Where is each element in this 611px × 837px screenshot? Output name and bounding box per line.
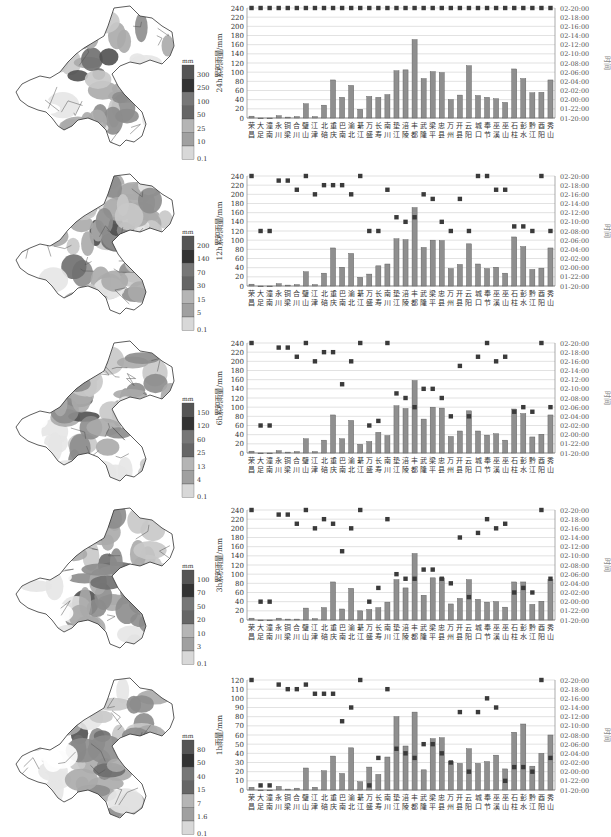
time-marker bbox=[485, 341, 489, 345]
y-tick: 0 bbox=[240, 450, 244, 458]
station-label: 奉 bbox=[484, 793, 491, 802]
station-label: 彭 bbox=[520, 121, 527, 130]
bar bbox=[285, 452, 290, 453]
time-marker bbox=[503, 6, 507, 10]
bar bbox=[521, 247, 526, 286]
bar bbox=[412, 554, 417, 620]
bar bbox=[276, 116, 281, 118]
time-marker bbox=[467, 414, 471, 418]
station-label: 开 bbox=[456, 290, 463, 298]
panel-12h: mm20014070301550.10204060801001201401601… bbox=[0, 168, 611, 333]
station-label: 川 bbox=[293, 299, 300, 307]
y-tick: 140 bbox=[231, 218, 244, 226]
station-label: 永 bbox=[275, 793, 282, 802]
time-marker bbox=[494, 359, 498, 363]
station-label: 溪 bbox=[493, 465, 500, 474]
time-marker bbox=[431, 387, 435, 391]
bar bbox=[294, 619, 299, 620]
time-marker bbox=[467, 229, 471, 233]
time-marker bbox=[530, 410, 534, 414]
station-label: 重 bbox=[330, 457, 337, 465]
y-tick: 100 bbox=[231, 237, 244, 245]
time-tick: 02-16:00 bbox=[560, 23, 589, 31]
time-marker bbox=[249, 174, 253, 178]
station-label: 万 bbox=[447, 457, 454, 465]
time-tick: 01-20:00 bbox=[560, 115, 589, 123]
time-marker bbox=[512, 410, 516, 414]
station-label: 荣 bbox=[248, 623, 255, 632]
station-label: 溪 bbox=[493, 632, 500, 641]
bar bbox=[412, 381, 417, 453]
station-label: 碚 bbox=[321, 632, 328, 641]
y-axis-label: 6h累积雨量/mm bbox=[214, 371, 224, 425]
time-marker bbox=[521, 405, 525, 409]
station-label: 口 bbox=[475, 131, 482, 139]
rainfall-map-3h bbox=[2, 504, 177, 654]
time-marker bbox=[340, 719, 344, 723]
station-label: 巫 bbox=[502, 457, 509, 465]
station-label: 都 bbox=[411, 633, 418, 641]
station-label: 庆 bbox=[330, 130, 337, 139]
station-label: 彭 bbox=[520, 793, 527, 802]
time-marker bbox=[367, 229, 371, 233]
time-marker bbox=[258, 599, 262, 603]
station-label: 山 bbox=[302, 802, 309, 811]
station-label: 南 bbox=[266, 465, 273, 474]
time-marker bbox=[421, 567, 425, 571]
time-marker bbox=[530, 769, 534, 773]
bar bbox=[367, 274, 372, 286]
time-tick: 02-16:00 bbox=[560, 191, 589, 199]
station-label: 平 bbox=[429, 466, 436, 474]
time-tick: 02-00:00 bbox=[560, 264, 589, 272]
time-tick: 01-20:00 bbox=[560, 450, 589, 458]
station-label: 酉 bbox=[538, 624, 545, 632]
station-label: 山 bbox=[302, 465, 309, 474]
time-marker bbox=[394, 572, 398, 576]
station-label: 永 bbox=[275, 289, 282, 298]
station-label: 阳 bbox=[465, 802, 472, 811]
legend-unit: mm bbox=[182, 732, 194, 739]
time-marker bbox=[403, 220, 407, 224]
time-marker bbox=[340, 549, 344, 553]
station-label: 巴 bbox=[339, 457, 346, 465]
legend-label: 15 bbox=[197, 296, 205, 304]
station-label: 云 bbox=[465, 794, 472, 802]
station-label: 奉 bbox=[484, 623, 491, 632]
y-axis-label: 3h累积雨量/mm bbox=[214, 538, 224, 592]
time-marker bbox=[367, 783, 371, 787]
station-label: 大 bbox=[257, 121, 264, 130]
bar bbox=[321, 440, 326, 453]
station-label: 江 bbox=[393, 466, 400, 474]
legend-unit: mm bbox=[182, 228, 194, 235]
time-marker bbox=[258, 229, 262, 233]
station-label: 寿 bbox=[375, 465, 382, 474]
station-label: 柱 bbox=[511, 802, 518, 811]
time-marker bbox=[403, 6, 407, 10]
time-tick: 02-14:00 bbox=[560, 200, 589, 208]
station-label: 垫 bbox=[393, 623, 400, 632]
time-marker bbox=[258, 423, 262, 427]
station-label: 黔 bbox=[529, 456, 536, 465]
y-tick: 20 bbox=[235, 768, 244, 776]
station-label: 黔 bbox=[529, 289, 536, 298]
bar bbox=[267, 118, 272, 119]
time-marker bbox=[521, 586, 525, 590]
time-tick: 02-08:00 bbox=[560, 732, 589, 740]
time-marker bbox=[385, 188, 389, 192]
station-label: 节 bbox=[484, 131, 491, 139]
station-label: 陵 bbox=[402, 802, 409, 811]
station-label: 昌 bbox=[248, 131, 255, 139]
time-axis-label: 时间 bbox=[603, 728, 611, 742]
station-label: 巫 bbox=[493, 624, 500, 632]
bar bbox=[521, 414, 526, 453]
station-label: 长 bbox=[375, 623, 382, 632]
station-label: 开 bbox=[456, 794, 463, 802]
station-label: 合 bbox=[293, 793, 300, 802]
bar bbox=[430, 72, 435, 118]
time-tick: 02-06:00 bbox=[560, 404, 589, 412]
station-label: 潼 bbox=[266, 121, 273, 130]
station-label: 云 bbox=[465, 457, 472, 465]
time-marker bbox=[449, 414, 453, 418]
time-tick: 02-06:00 bbox=[560, 69, 589, 77]
station-label: 忠 bbox=[438, 122, 445, 130]
